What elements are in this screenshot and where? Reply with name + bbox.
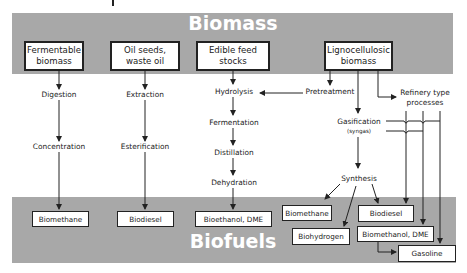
arrow <box>325 184 340 199</box>
step-synthesis: Synthesis <box>341 174 377 183</box>
source-fermentable-biomass: Fermentable biomass <box>24 41 84 71</box>
step-dehydration: Dehydration <box>211 178 257 187</box>
step-distillation: Distillation <box>214 148 253 157</box>
arrow <box>344 186 356 226</box>
output-biodiesel-synthesis: Biodiesel <box>358 205 414 222</box>
output-biodiesel: Biodiesel <box>117 211 174 227</box>
step-refinery-processes: processes <box>407 98 444 107</box>
arrow <box>378 70 396 97</box>
step-syngas: (syngas) <box>347 128 371 134</box>
connector <box>386 131 423 133</box>
output-biomethane: Biomethane <box>32 211 89 227</box>
output-gasoline: Gasoline <box>398 245 456 262</box>
output-biohydrogen: Biohydrogen <box>292 228 350 245</box>
step-extraction: Extraction <box>126 90 164 99</box>
step-refinery-type: Refinery type <box>400 88 450 97</box>
arrow <box>372 184 378 203</box>
step-esterification: Esterification <box>121 142 169 151</box>
output-biomethanol-dme: Biomethanol, DME <box>357 226 434 242</box>
step-gasification: Gasification <box>337 117 381 126</box>
source-edible-feed-stocks: Edible feed stocks <box>196 41 270 71</box>
source-lignocellulosic-biomass: Lignocellulosic biomass <box>324 41 393 71</box>
output-bioethanol-dme: Bioethanol, DME <box>195 211 272 227</box>
source-oil-seeds: Oil seeds, waste oil <box>110 41 180 71</box>
connector <box>386 121 440 123</box>
step-pretreatment: Pretreatment <box>306 87 355 96</box>
step-fermentation: Fermentation <box>209 118 258 127</box>
arrow <box>378 242 396 252</box>
step-concentration: Concentration <box>33 142 85 151</box>
step-hydrolysis: Hydrolysis <box>215 87 253 96</box>
output-biomethane-synthesis: Biomethane <box>282 205 332 221</box>
step-digestion: Digestion <box>42 90 77 99</box>
